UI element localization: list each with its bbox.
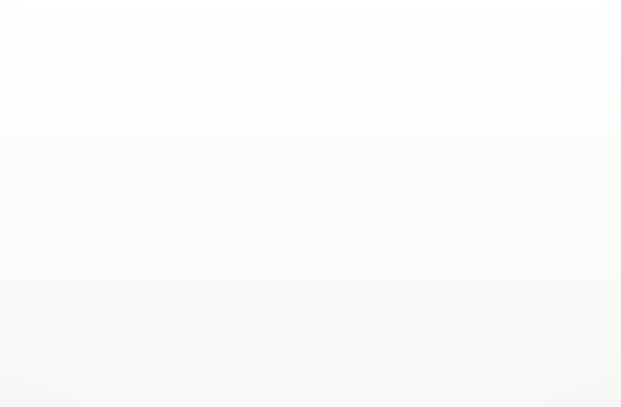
ledger-header-rules: [0, 0, 621, 407]
ledger-sheet: [0, 0, 621, 407]
